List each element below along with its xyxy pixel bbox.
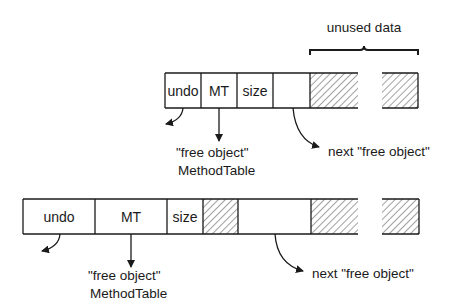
unused-data-brace bbox=[310, 46, 418, 55]
top-mt-note-line1: "free object" bbox=[176, 145, 249, 160]
top-next-note: next "free object" bbox=[328, 144, 430, 159]
top-row bbox=[165, 73, 418, 108]
bottom-undo-arrow-icon bbox=[42, 234, 60, 251]
bottom-size-cell: size bbox=[173, 209, 198, 225]
top-size-cell: size bbox=[243, 83, 268, 99]
bottom-mt-note-line2: MethodTable bbox=[90, 286, 167, 301]
bottom-next-note: next "free object" bbox=[312, 266, 414, 281]
free-object-diagram: unused data undo MT size "free object" M… bbox=[0, 0, 457, 308]
top-undo-arrow-icon bbox=[166, 108, 183, 124]
bottom-undo-cell: undo bbox=[43, 209, 74, 225]
bottom-next-arrow-icon bbox=[275, 234, 303, 271]
top-next-arrow-icon bbox=[293, 108, 319, 147]
top-undo-cell: undo bbox=[167, 83, 198, 99]
bottom-mt-note-line1: "free object" bbox=[88, 268, 161, 283]
unused-data-label: unused data bbox=[327, 20, 402, 35]
bottom-row bbox=[23, 199, 419, 234]
bottom-mt-cell: MT bbox=[121, 209, 142, 225]
top-mt-cell: MT bbox=[209, 83, 230, 99]
top-mt-note-line2: MethodTable bbox=[178, 163, 255, 178]
